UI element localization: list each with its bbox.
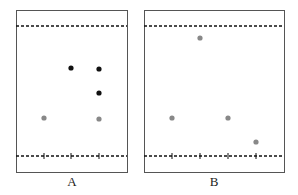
panel-b-data-point xyxy=(197,35,202,40)
panel-b-data-point xyxy=(225,115,230,120)
panel-a-label: A xyxy=(57,174,87,190)
panel-a-data-point xyxy=(96,116,101,121)
panel-b-label: B xyxy=(199,174,229,190)
panel-a-data-point xyxy=(68,65,73,70)
panel-b-data-point xyxy=(169,115,174,120)
panel-a-data-point xyxy=(41,115,46,120)
panel-a-data-point xyxy=(96,66,101,71)
panel-b-data-point xyxy=(253,139,258,144)
diagram-canvas xyxy=(0,0,298,195)
panel-b-frame xyxy=(145,11,285,173)
panel-a-data-point xyxy=(96,90,101,95)
panel-a-frame xyxy=(17,11,128,173)
